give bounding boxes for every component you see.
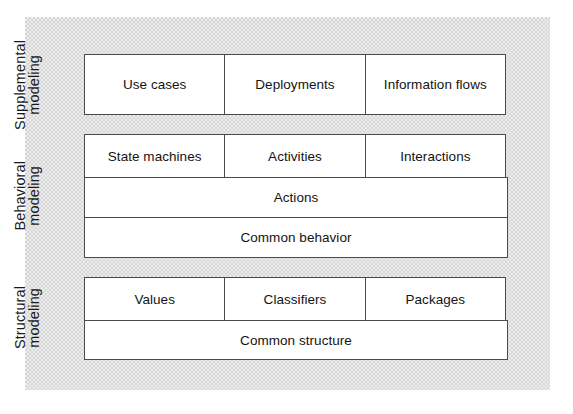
diagram-cell-common-structure[interactable]: Common structure xyxy=(84,320,508,360)
diagram-cell-common-behavior[interactable]: Common behavior xyxy=(84,217,508,258)
section-group-supplemental-modeling: Use cases Deployments Information flows xyxy=(84,54,508,115)
diagram-cell-values[interactable]: Values xyxy=(84,277,225,321)
diagram-row: Common behavior xyxy=(84,217,508,258)
section-group-behavioral-modeling: State machines Activities Interactions A… xyxy=(84,134,508,258)
diagram-cell-deployments[interactable]: Deployments xyxy=(224,54,365,115)
diagram-cell-activities[interactable]: Activities xyxy=(224,134,365,178)
diagram-row: State machines Activities Interactions xyxy=(84,134,508,178)
diagram-row: Use cases Deployments Information flows xyxy=(84,54,508,115)
diagram-row: Actions xyxy=(84,177,508,218)
diagram-cell-interactions[interactable]: Interactions xyxy=(365,134,506,178)
diagram-row: Common structure xyxy=(84,320,508,360)
diagram-cell-classifiers[interactable]: Classifiers xyxy=(224,277,365,321)
diagram-cell-packages[interactable]: Packages xyxy=(365,277,506,321)
section-group-structural-modeling: Values Classifiers Packages Common struc… xyxy=(84,277,508,360)
uml-modeling-layers-diagram: Supplemental modeling Use cases Deployme… xyxy=(0,0,573,414)
diagram-row: Values Classifiers Packages xyxy=(84,277,508,321)
diagram-cell-information-flows[interactable]: Information flows xyxy=(365,54,506,115)
diagram-cell-use-cases[interactable]: Use cases xyxy=(84,54,225,115)
diagram-cell-actions[interactable]: Actions xyxy=(84,177,508,218)
diagram-cell-state-machines[interactable]: State machines xyxy=(84,134,225,178)
